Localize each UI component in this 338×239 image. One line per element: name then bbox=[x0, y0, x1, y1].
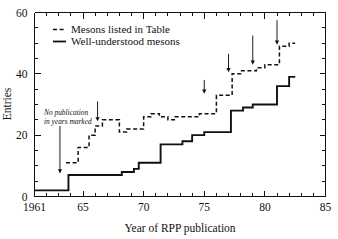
y-tick-label: 20 bbox=[16, 129, 28, 141]
x-tick-label: 70 bbox=[138, 201, 150, 213]
arrow-head bbox=[202, 90, 206, 94]
arrow-head bbox=[226, 68, 230, 72]
y-axis-tick-labels: 0204060 bbox=[16, 7, 28, 203]
legend-label-mesons-listed: Mesons listed in Table bbox=[71, 23, 170, 35]
annotation-line-1: No publication bbox=[43, 108, 88, 117]
x-tick-label: 65 bbox=[77, 201, 89, 213]
y-tick-label: 0 bbox=[22, 191, 28, 203]
x-tick-label: 75 bbox=[199, 201, 211, 213]
chart-figure: 19616570758085 0204060 Year of RPP publi… bbox=[0, 0, 338, 239]
arrow-head bbox=[251, 60, 255, 64]
arrow-head bbox=[95, 117, 99, 121]
series-well-understood bbox=[35, 77, 296, 190]
y-tick-label: 60 bbox=[16, 7, 28, 19]
y-tick-label: 40 bbox=[16, 68, 28, 80]
x-axis-title: Year of RPP publication bbox=[124, 222, 235, 235]
legend: Mesons listed in Table Well-understood m… bbox=[53, 23, 180, 47]
y-axis-title: Entries bbox=[1, 87, 13, 120]
y-axis-minor-ticks bbox=[35, 13, 41, 197]
annotation-line-2: in years marked bbox=[44, 117, 92, 126]
arrow-head bbox=[58, 169, 62, 173]
x-tick-label: 85 bbox=[320, 201, 332, 213]
arrow-head bbox=[275, 41, 279, 45]
chart-canvas: 19616570758085 0204060 Year of RPP publi… bbox=[0, 0, 338, 239]
legend-label-well-understood: Well-understood mesons bbox=[71, 35, 180, 47]
y-axis-right-ticks bbox=[320, 13, 326, 197]
x-axis-minor-ticks bbox=[35, 191, 326, 197]
no-publication-annotation: No publication in years marked bbox=[43, 108, 92, 126]
x-axis-top-ticks bbox=[35, 13, 326, 19]
x-axis-tick-labels: 19616570758085 bbox=[23, 201, 332, 213]
x-tick-label: 80 bbox=[259, 201, 271, 213]
